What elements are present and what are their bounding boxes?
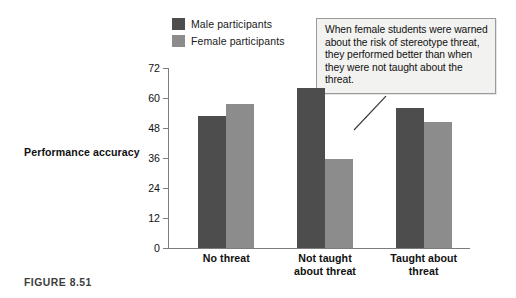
y-tick-label: 24 xyxy=(148,182,160,194)
legend-label-male: Male participants xyxy=(191,18,272,30)
figure-container: Male participants Female participants Wh… xyxy=(0,0,516,298)
plot-area: 0122436486072 No threatNot taughtabout t… xyxy=(168,68,470,248)
y-tick-mark xyxy=(163,128,168,129)
y-tick-label: 48 xyxy=(148,122,160,134)
bar-female-2 xyxy=(424,122,452,248)
legend-label-female: Female participants xyxy=(191,35,285,47)
x-axis-label-line: Taught about xyxy=(369,252,479,265)
bar-male-1 xyxy=(297,88,325,248)
y-axis-title: Performance accuracy xyxy=(24,146,140,158)
x-axis-label-line: No threat xyxy=(171,252,281,265)
figure-caption: FIGURE 8.51 xyxy=(24,277,92,288)
x-axis-label-line: Not taught xyxy=(270,252,380,265)
y-tick-mark xyxy=(163,158,168,159)
legend-swatch-male-icon xyxy=(172,18,185,30)
y-axis-line xyxy=(168,68,169,249)
x-axis-label-0: No threat xyxy=(171,252,281,265)
y-tick-label: 36 xyxy=(148,152,160,164)
y-tick-mark xyxy=(163,218,168,219)
y-tick-label: 0 xyxy=(154,242,160,254)
y-tick-label: 72 xyxy=(148,62,160,74)
y-tick-mark xyxy=(163,248,168,249)
bar-male-2 xyxy=(396,108,424,248)
legend-swatch-female-icon xyxy=(172,35,185,47)
x-axis-label-line: threat xyxy=(369,265,479,278)
y-tick-label: 60 xyxy=(148,92,160,104)
bar-female-1 xyxy=(325,159,353,248)
y-tick-mark xyxy=(163,68,168,69)
x-axis-label-1: Not taughtabout threat xyxy=(270,252,380,277)
bar-male-0 xyxy=(198,116,226,249)
x-axis-line xyxy=(168,248,470,249)
bar-female-0 xyxy=(226,104,254,248)
x-axis-label-2: Taught aboutthreat xyxy=(369,252,479,277)
legend-item-female: Female participants xyxy=(172,34,285,48)
legend-item-male: Male participants xyxy=(172,17,285,31)
y-tick-label: 12 xyxy=(148,212,160,224)
chart-legend: Male participants Female participants xyxy=(172,17,285,48)
y-tick-mark xyxy=(163,188,168,189)
y-tick-mark xyxy=(163,98,168,99)
x-axis-label-line: about threat xyxy=(270,265,380,278)
